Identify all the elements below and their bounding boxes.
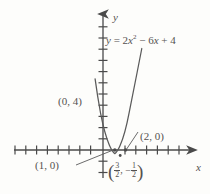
x-axis-label: x — [196, 162, 201, 173]
point-marker-vertex — [119, 154, 122, 157]
vertex-comma: , — [120, 164, 123, 175]
equation-constant: + 4 — [159, 34, 176, 46]
graph-canvas — [0, 0, 210, 194]
y-intercept-label: (0, 4) — [58, 96, 82, 107]
vertex-close-paren: ) — [137, 161, 143, 182]
point-marker-root2 — [124, 148, 127, 151]
parabola-figure: y x y = 2x2 − 6x + 4 (0, 4) (1, 0) (2, 0… — [0, 0, 210, 194]
parabola-curve — [95, 49, 142, 154]
root-two-label: (2, 0) — [140, 131, 164, 142]
root-one-label: (1, 0) — [35, 160, 59, 171]
equation-label: y = 2x2 − 6x + 4 — [106, 35, 176, 46]
vertex-label: (32, −12) — [108, 162, 143, 180]
equation-minus-term: − 6 — [137, 34, 154, 46]
leader-line-root1 — [76, 151, 112, 166]
equation-eq: = 2 — [111, 34, 128, 46]
point-marker-root1 — [113, 148, 116, 151]
y-axis-label: y — [113, 12, 118, 23]
